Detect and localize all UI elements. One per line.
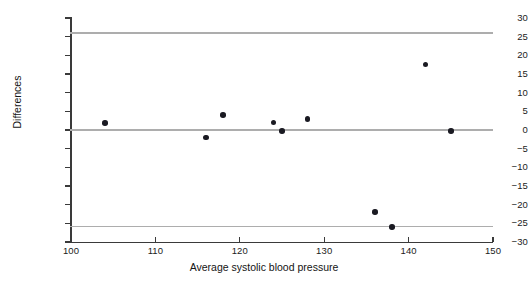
y-tick-label: 25 (466, 31, 528, 42)
y-tick-label: −15 (466, 180, 528, 191)
x-tick (239, 237, 240, 242)
data-point (448, 128, 454, 134)
y-tick (65, 167, 70, 168)
y-tick (65, 129, 70, 130)
y-tick-label: 30 (466, 12, 528, 23)
y-tick-label: −5 (466, 143, 528, 154)
x-tick (492, 237, 493, 242)
y-tick-label: −10 (466, 161, 528, 172)
data-point (389, 224, 395, 230)
data-point (423, 62, 429, 68)
data-point (372, 209, 378, 215)
y-tick (65, 185, 70, 186)
x-tick (70, 237, 71, 242)
x-axis-line (70, 242, 493, 244)
y-tick-label: −20 (466, 199, 528, 210)
x-tick-label: 130 (299, 245, 349, 256)
y-tick-label: 10 (466, 87, 528, 98)
y-tick (65, 204, 70, 205)
x-tick-label: 150 (468, 245, 518, 256)
x-tick-label: 120 (215, 245, 265, 256)
lower-limit-of-agreement-line (70, 226, 493, 227)
x-tick-label: 110 (130, 245, 180, 256)
y-tick (65, 241, 70, 242)
data-point (220, 112, 226, 118)
y-tick-label: 15 (466, 68, 528, 79)
y-tick (65, 223, 70, 224)
y-tick-label: 0 (466, 124, 528, 135)
y-tick-label: −25 (466, 217, 528, 228)
upper-limit-of-agreement-line (70, 32, 493, 33)
x-tick-label: 100 (46, 245, 96, 256)
y-tick (65, 36, 70, 37)
data-point (102, 120, 108, 126)
x-tick (408, 237, 409, 242)
data-point (203, 135, 209, 141)
x-tick-label: 140 (384, 245, 434, 256)
data-point (271, 120, 277, 126)
x-tick (324, 237, 325, 242)
y-tick-label: 5 (466, 105, 528, 116)
data-point (305, 116, 311, 122)
y-tick (65, 92, 70, 93)
y-tick (65, 148, 70, 149)
bland-altman-scatter-plot: 302520151050−5−10−15−20−25−30 1001101201… (0, 0, 528, 290)
y-tick (65, 73, 70, 74)
y-tick (65, 17, 70, 18)
y-tick-label: 20 (466, 49, 528, 60)
y-tick (65, 111, 70, 112)
x-tick (155, 237, 156, 242)
x-axis-title: Average systolic blood pressure (0, 261, 528, 273)
y-axis-title: Differences (11, 52, 23, 152)
data-point (279, 128, 285, 134)
y-tick (65, 55, 70, 56)
